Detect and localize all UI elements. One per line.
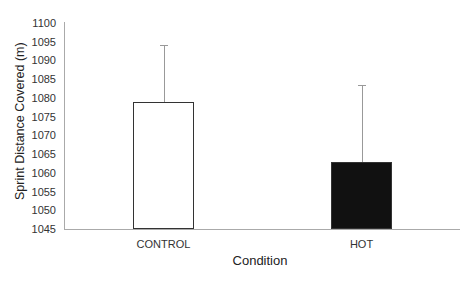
y-tick-label: 1065 [22,148,56,160]
error-bar [164,45,165,101]
bar-hot [331,162,392,229]
x-tick-label: HOT [312,238,412,250]
y-tick-label: 1080 [22,92,56,104]
bar-control [133,102,194,229]
y-tick-label: 1100 [22,17,56,29]
x-tick-label: CONTROL [114,238,214,250]
y-tick-label: 1085 [22,73,56,85]
y-tick-label: 1095 [22,36,56,48]
y-tick-label: 1075 [22,111,56,123]
y-tick-label: 1045 [22,223,56,235]
error-bar-cap [358,85,366,86]
error-bar-cap [160,45,168,46]
y-tick-label: 1055 [22,186,56,198]
x-axis-title: Condition [190,253,330,268]
y-axis-line [64,22,65,229]
x-axis-line [64,229,460,230]
y-tick-label: 1050 [22,204,56,216]
y-tick-label: 1070 [22,129,56,141]
y-tick-label: 1090 [22,54,56,66]
y-axis-title: Sprint Distance Covered (m) [13,50,27,200]
error-bar [362,85,363,162]
y-tick-label: 1060 [22,167,56,179]
